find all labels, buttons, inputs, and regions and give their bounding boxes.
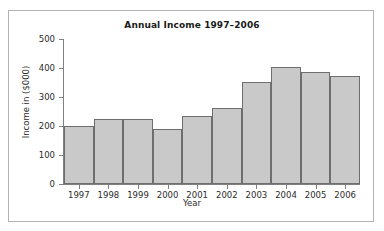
bar-series: [64, 39, 360, 184]
x-axis-tick: [138, 185, 139, 189]
x-axis-tick: [108, 185, 109, 189]
bar-2003: [242, 82, 272, 184]
bar-1999: [123, 119, 153, 184]
chart-title: Annual Income 1997–2006: [9, 20, 375, 30]
x-axis-tick-label: 2006: [325, 191, 365, 200]
y-axis-tick-label: 300: [17, 93, 55, 102]
x-axis-tick: [168, 185, 169, 189]
chart-frame: Annual Income 1997–2006 Income in ($000)…: [8, 10, 374, 222]
x-axis-tick: [316, 185, 317, 189]
bar-2004: [271, 67, 301, 184]
bar-1998: [94, 119, 124, 184]
y-axis-tick-label: 100: [17, 151, 55, 160]
x-axis-tick: [345, 185, 346, 189]
x-axis-tick: [256, 185, 257, 189]
x-axis-tick: [286, 185, 287, 189]
x-axis-tick: [227, 185, 228, 189]
bar-2006: [330, 76, 360, 184]
bar-2005: [301, 72, 331, 184]
x-axis-tick: [197, 185, 198, 189]
bar-2000: [153, 129, 183, 184]
x-axis-tick: [79, 185, 80, 189]
y-axis-tick: [59, 184, 64, 185]
y-axis-tick-label: 500: [17, 35, 55, 44]
bar-2001: [182, 116, 212, 184]
y-axis-tick-label: 200: [17, 122, 55, 131]
y-axis-tick-label: 400: [17, 64, 55, 73]
bar-2002: [212, 108, 242, 184]
y-axis-tick-label: 0: [17, 180, 55, 189]
bar-1997: [64, 126, 94, 184]
